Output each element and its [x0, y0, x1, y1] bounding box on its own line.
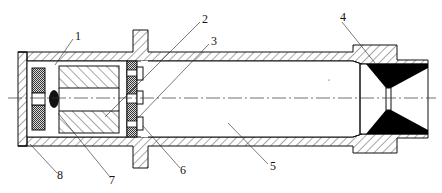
- housing: [18, 30, 428, 168]
- part-3-tab: [137, 67, 143, 80]
- label-8: 8: [57, 168, 63, 182]
- label-5: 5: [270, 159, 276, 173]
- housing-left-wall: [18, 52, 27, 146]
- label-7: 7: [109, 173, 115, 187]
- speck: [328, 79, 329, 80]
- label-4: 4: [340, 10, 346, 24]
- label-1: 1: [75, 29, 81, 43]
- cross-section-diagram: 1 2 3 4 5 6 7 8: [0, 0, 442, 193]
- part-7-emitter: [49, 90, 59, 108]
- part-2-grid-stack: [127, 61, 143, 137]
- label-3: 3: [211, 34, 217, 48]
- label-2: 2: [202, 12, 208, 26]
- part-1-disc: [32, 68, 45, 130]
- label-6: 6: [180, 163, 186, 177]
- part-6-tab: [137, 117, 143, 130]
- tube-interior: [141, 61, 353, 137]
